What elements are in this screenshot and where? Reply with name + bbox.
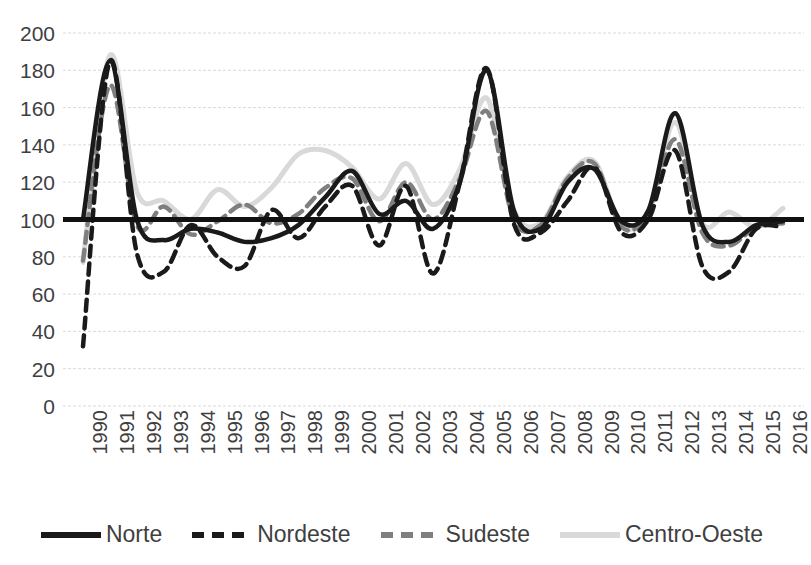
y-axis-tick: 120 xyxy=(20,172,55,193)
y-axis: 020406080100120140160180200 xyxy=(0,33,55,406)
x-axis-tick: 2011 xyxy=(655,410,675,453)
y-axis-tick: 60 xyxy=(32,284,55,305)
y-axis-tick: 200 xyxy=(20,23,55,44)
y-axis-tick: 80 xyxy=(32,246,55,267)
legend-label: Norte xyxy=(106,523,162,546)
legend-item-centro-oeste[interactable]: Centro-Oeste xyxy=(560,523,763,546)
y-axis-tick: 20 xyxy=(32,358,55,379)
legend-item-nordeste[interactable]: Nordeste xyxy=(192,523,350,546)
legend-swatch-icon xyxy=(381,532,441,538)
chart-legend: NorteNordesteSudesteCentro-Oeste xyxy=(0,512,804,557)
x-axis-tick: 2001 xyxy=(386,410,406,455)
legend-swatch-icon xyxy=(560,532,620,538)
x-axis-tick: 1998 xyxy=(305,410,325,455)
x-axis-tick: 2005 xyxy=(494,410,514,455)
series-line-sudeste xyxy=(83,85,783,261)
x-axis-tick: 2004 xyxy=(467,410,487,455)
x-axis-tick: 1999 xyxy=(332,410,352,455)
x-axis-tick: 2008 xyxy=(575,410,595,455)
legend-label: Nordeste xyxy=(257,523,350,546)
x-axis-tick: 1993 xyxy=(171,410,191,455)
x-axis-tick: 2007 xyxy=(548,410,568,455)
x-axis-tick: 1996 xyxy=(252,410,272,455)
x-axis-tick: 1995 xyxy=(225,410,245,455)
y-axis-tick: 40 xyxy=(32,321,55,342)
legend-swatch-icon xyxy=(41,532,101,538)
y-axis-tick: 180 xyxy=(20,60,55,81)
legend-label: Centro-Oeste xyxy=(625,523,763,546)
legend-label: Sudeste xyxy=(446,523,530,546)
y-axis-tick: 0 xyxy=(43,396,55,417)
x-axis-tick: 2009 xyxy=(602,410,622,455)
x-axis: 1990199119921993199419951996199719981999… xyxy=(63,410,804,510)
x-axis-tick: 2016 xyxy=(790,410,810,455)
x-axis-tick: 1994 xyxy=(198,410,218,455)
x-axis-tick: 1992 xyxy=(144,410,164,455)
x-axis-tick: 2006 xyxy=(521,410,541,455)
legend-item-sudeste[interactable]: Sudeste xyxy=(381,523,530,546)
x-axis-tick: 2013 xyxy=(709,410,729,455)
x-axis-tick: 1991 xyxy=(117,410,137,455)
x-axis-tick: 2010 xyxy=(628,410,648,455)
series-lines xyxy=(63,33,804,406)
x-axis-tick: 2012 xyxy=(682,410,702,455)
x-axis-tick: 2014 xyxy=(736,410,756,455)
x-axis-tick: 2000 xyxy=(359,410,379,455)
plot-area xyxy=(63,33,804,406)
x-axis-tick: 1990 xyxy=(90,410,110,455)
y-axis-tick: 160 xyxy=(20,97,55,118)
legend-swatch-icon xyxy=(192,532,252,538)
x-axis-tick: 2003 xyxy=(440,410,460,455)
legend-item-norte[interactable]: Norte xyxy=(41,523,162,546)
x-axis-tick: 1997 xyxy=(278,410,298,455)
x-axis-tick: 2015 xyxy=(763,410,783,455)
y-axis-tick: 100 xyxy=(20,209,55,230)
y-axis-tick: 140 xyxy=(20,134,55,155)
x-axis-tick: 2002 xyxy=(413,410,433,455)
